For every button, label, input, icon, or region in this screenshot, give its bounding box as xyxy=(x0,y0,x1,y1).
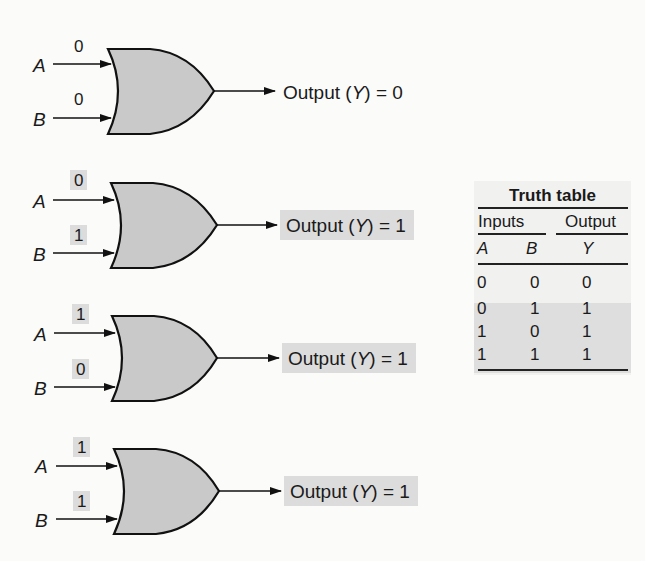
input-b-label: B xyxy=(33,110,46,129)
divider xyxy=(478,233,546,235)
cell: 1 xyxy=(582,322,591,342)
output-prefix: Output ( xyxy=(288,348,357,369)
output-suffix: ) = 1 xyxy=(367,215,406,236)
output-suffix: ) = 1 xyxy=(369,348,408,369)
truth-table-title: Truth table xyxy=(474,186,631,206)
output-prefix: Output ( xyxy=(290,481,359,502)
input-b-label: B xyxy=(34,379,47,398)
column-header-a: A xyxy=(477,239,488,259)
input-b-label: B xyxy=(33,245,46,264)
input-b-value: 0 xyxy=(70,89,87,109)
input-a-label: A xyxy=(33,56,46,75)
cell: 1 xyxy=(582,345,591,365)
output-variable: Y xyxy=(355,215,368,236)
cell: 0 xyxy=(582,273,591,293)
input-a-value: 0 xyxy=(70,36,87,56)
output-variable: Y xyxy=(359,481,372,502)
output-group-header: Output xyxy=(565,212,616,232)
output-label: Output (Y) = 1 xyxy=(284,476,418,506)
output-variable: Y xyxy=(357,348,370,369)
cell: 0 xyxy=(530,322,539,342)
input-a-label: A xyxy=(35,457,48,476)
divider xyxy=(478,263,628,265)
cell: 1 xyxy=(477,322,486,342)
divider xyxy=(478,369,628,371)
divider xyxy=(478,207,628,209)
cell: 0 xyxy=(477,299,486,319)
input-b-value: 0 xyxy=(72,359,89,379)
output-suffix: ) = 0 xyxy=(364,82,403,103)
input-a-value: 0 xyxy=(70,170,87,190)
cell: 1 xyxy=(477,345,486,365)
cell: 1 xyxy=(530,345,539,365)
input-a-value: 1 xyxy=(72,304,89,324)
output-label: Output (Y) = 1 xyxy=(280,210,414,240)
column-header-b: B xyxy=(526,239,537,259)
highlighted-rows-band xyxy=(474,303,631,373)
input-b-value: 1 xyxy=(73,491,90,511)
output-label: Output (Y) = 1 xyxy=(282,343,416,373)
input-a-value: 1 xyxy=(73,437,90,457)
cell: 0 xyxy=(477,273,486,293)
output-label: Output (Y) = 0 xyxy=(277,77,411,107)
input-b-label: B xyxy=(35,511,48,530)
output-prefix: Output ( xyxy=(286,215,355,236)
output-suffix: ) = 1 xyxy=(371,481,410,502)
or-gate-icon xyxy=(108,49,214,134)
or-gate-icon xyxy=(111,183,217,268)
or-gate-icon xyxy=(112,316,217,401)
or-gate-icon xyxy=(114,449,219,534)
input-b-value: 1 xyxy=(70,225,87,245)
output-prefix: Output ( xyxy=(283,82,352,103)
truth-table: Truth table Inputs Output A B Y 0 0 0 0 … xyxy=(474,181,631,375)
input-a-label: A xyxy=(33,192,46,211)
divider xyxy=(556,233,628,235)
input-a-label: A xyxy=(34,325,47,344)
cell: 0 xyxy=(530,273,539,293)
output-variable: Y xyxy=(352,82,365,103)
column-header-y: Y xyxy=(582,239,593,259)
cell: 1 xyxy=(582,299,591,319)
cell: 1 xyxy=(530,299,539,319)
inputs-group-header: Inputs xyxy=(478,212,524,232)
